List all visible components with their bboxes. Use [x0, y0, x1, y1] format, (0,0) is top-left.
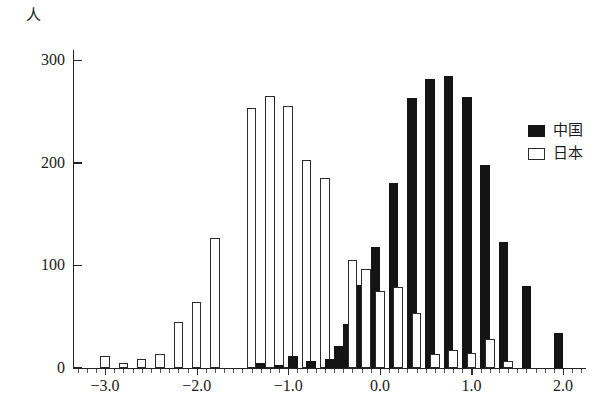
x-tick-mark-minor	[123, 369, 124, 373]
x-tick-mark-minor	[261, 369, 262, 373]
bar-china	[480, 165, 490, 368]
x-tick-mark-minor	[252, 369, 253, 373]
bar-china	[522, 286, 532, 368]
bar-japan	[174, 322, 184, 368]
bar-china	[256, 363, 266, 368]
x-tick-mark-minor	[545, 369, 546, 373]
x-tick-mark-minor	[114, 369, 115, 373]
x-tick-mark-minor	[325, 369, 326, 373]
bar-china	[554, 333, 564, 368]
bar-japan	[448, 350, 458, 368]
y-tick-label: 0	[0, 360, 65, 376]
x-tick-mark-minor	[87, 369, 88, 373]
legend-item-china[interactable]: 中国	[528, 119, 600, 142]
bar-china	[462, 97, 472, 368]
bar-china	[288, 356, 298, 368]
y-tick-label: 300	[0, 52, 65, 68]
x-tick-label: 2.0	[553, 378, 573, 394]
x-tick-mark-major	[288, 369, 289, 375]
x-tick-mark-minor	[371, 369, 372, 373]
x-tick-mark-major	[105, 369, 106, 375]
x-tick-mark-minor	[572, 369, 573, 373]
bar-japan	[320, 178, 330, 368]
x-tick-mark-minor	[142, 369, 143, 373]
bar-japan	[412, 313, 422, 368]
x-tick-mark-minor	[242, 369, 243, 373]
bar-japan	[210, 238, 220, 368]
x-tick-mark-minor	[526, 369, 527, 373]
bars-layer	[73, 50, 586, 368]
bar-japan	[503, 361, 513, 368]
x-tick-mark-minor	[462, 369, 463, 373]
bar-japan	[361, 269, 371, 369]
bar-japan	[192, 302, 202, 368]
x-tick-mark-minor	[490, 369, 491, 373]
x-tick-mark-minor	[233, 369, 234, 373]
x-tick-mark-minor	[417, 369, 418, 373]
bar-china	[425, 79, 435, 368]
x-tick-mark-minor	[426, 369, 427, 373]
x-tick-mark-major	[380, 369, 381, 375]
x-tick-mark-minor	[160, 369, 161, 373]
x-tick-mark-minor	[307, 369, 308, 373]
x-tick-mark-minor	[178, 369, 179, 373]
x-tick-mark-minor	[206, 369, 207, 373]
x-tick-mark-minor	[517, 369, 518, 373]
x-tick-mark-minor	[362, 369, 363, 373]
x-tick-label: 0.0	[370, 378, 390, 394]
y-axis-unit-label: 人	[26, 8, 41, 23]
x-tick-label: −2.0	[182, 378, 211, 394]
bar-japan	[100, 356, 110, 368]
x-tick-label: 1.0	[461, 378, 481, 394]
x-tick-mark-minor	[151, 369, 152, 373]
x-tick-mark-minor	[343, 369, 344, 373]
y-tick-label: 200	[0, 155, 65, 171]
bar-japan	[155, 354, 165, 368]
x-tick-label: −3.0	[91, 378, 120, 394]
y-tick-label: 100	[0, 257, 65, 273]
bar-japan	[375, 291, 385, 368]
x-tick-mark-minor	[481, 369, 482, 373]
bar-japan	[430, 354, 440, 368]
legend-item-japan[interactable]: 日本	[528, 142, 600, 165]
x-tick-label: −1.0	[274, 378, 303, 394]
x-tick-mark-minor	[499, 369, 500, 373]
x-tick-mark-minor	[554, 369, 555, 373]
chart-legend: 中国 日本	[528, 119, 600, 165]
legend-label-japan: 日本	[553, 146, 583, 161]
bar-japan	[119, 363, 129, 368]
bar-japan	[265, 96, 275, 368]
x-tick-mark-minor	[435, 369, 436, 373]
x-tick-mark-minor	[444, 369, 445, 373]
x-tick-mark-minor	[297, 369, 298, 373]
bar-japan	[302, 160, 312, 368]
x-tick-mark-minor	[398, 369, 399, 373]
x-tick-mark-minor	[581, 369, 582, 373]
x-tick-mark-minor	[389, 369, 390, 373]
bar-japan	[247, 108, 257, 368]
x-tick-mark-major	[197, 369, 198, 375]
bar-china	[274, 365, 284, 368]
x-tick-mark-minor	[508, 369, 509, 373]
x-tick-mark-minor	[78, 369, 79, 373]
x-tick-mark-major	[471, 369, 472, 375]
bar-japan	[393, 287, 403, 368]
legend-swatch-filled-icon	[528, 125, 545, 137]
x-tick-mark-minor	[279, 369, 280, 373]
legend-swatch-outlined-icon	[528, 148, 545, 160]
bar-china	[444, 76, 454, 368]
x-tick-mark-minor	[188, 369, 189, 373]
x-tick-mark-minor	[96, 369, 97, 373]
bar-japan	[283, 106, 293, 368]
x-tick-mark-minor	[169, 369, 170, 373]
histogram-chart: 人 0100200300 −3.0−2.0−1.00.01.02.0 中国 日本	[0, 0, 607, 420]
bar-china	[334, 346, 344, 368]
x-tick-mark-minor	[270, 369, 271, 373]
x-tick-mark-minor	[407, 369, 408, 373]
x-tick-mark-minor	[316, 369, 317, 373]
x-tick-mark-minor	[352, 369, 353, 373]
bar-japan	[467, 353, 477, 368]
bar-japan	[485, 339, 495, 368]
x-tick-mark-minor	[133, 369, 134, 373]
bar-china	[325, 359, 335, 368]
